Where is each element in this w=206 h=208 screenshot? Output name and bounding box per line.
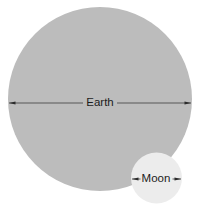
moon-label: Moon: [142, 172, 171, 184]
earth-label: Earth: [86, 96, 114, 108]
diagram-canvas: Earth Moon: [0, 0, 206, 208]
size-comparison-diagram: Earth Moon: [0, 0, 206, 208]
